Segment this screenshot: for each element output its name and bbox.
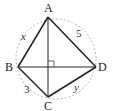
side-label-cd: y [73,81,79,93]
vertex-label-a: A [44,1,53,15]
vertex-label-c: C [44,99,52,111]
side-label-ab: x [20,30,26,42]
cyclic-quadrilateral-diagram: A B C D x 5 3 y [0,0,113,111]
vertex-label-d: D [98,60,107,74]
side-ab [18,17,48,67]
vertex-label-b: B [5,60,13,74]
side-label-bc: 3 [24,83,30,95]
right-angle-marker [48,61,54,67]
side-label-ad: 5 [76,27,82,39]
side-ad [48,17,96,67]
side-bc [18,67,48,97]
